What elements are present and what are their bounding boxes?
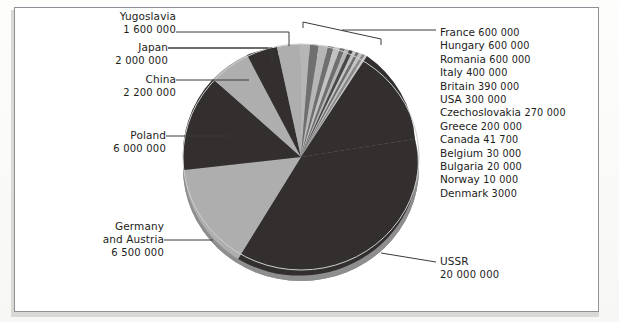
legend-item-norway: Norway 10 000 xyxy=(440,173,566,186)
callout-ussr: USSR 20 000 000 xyxy=(440,255,499,281)
callout-china-name: China xyxy=(20,73,176,86)
callout-japan-value: 2 000 000 xyxy=(20,54,168,67)
legend-item-bulgaria-value: 20 000 xyxy=(487,161,522,172)
legend-item-belgium: Belgium 30 000 xyxy=(440,147,566,160)
legend-item-greece-name: Greece xyxy=(440,120,477,132)
callout-poland: Poland 6 000 000 xyxy=(20,129,166,155)
legend-item-romania: Romania 600 000 xyxy=(440,53,566,66)
callout-germany-austria-line1: Germany xyxy=(20,220,164,233)
legend-item-france-value: 600 000 xyxy=(478,27,519,38)
legend-item-greece: Greece 200 000 xyxy=(440,120,566,133)
legend-item-norway-value: 10 000 xyxy=(483,174,518,185)
legend-item-denmark: Denmark 3000 xyxy=(440,187,566,200)
callout-yugoslavia-name: Yugoslavia xyxy=(20,10,176,23)
legend-item-france: France 600 000 xyxy=(440,26,566,39)
callout-yugoslavia-value: 1 600 000 xyxy=(20,23,176,36)
callout-germany-austria-line2: and Austria xyxy=(20,233,164,246)
legend-item-czechoslovakia-name: Czechoslovakia xyxy=(440,106,521,118)
legend-item-italy-name: Italy xyxy=(440,66,463,78)
legend-item-bulgaria: Bulgaria 20 000 xyxy=(440,160,566,173)
legend-item-hungary: Hungary 600 000 xyxy=(440,39,566,52)
legend-item-canada-value: 41 700 xyxy=(483,134,518,145)
legend-item-hungary-value: 600 000 xyxy=(488,40,529,51)
legend-item-belgium-value: 30 000 xyxy=(486,148,521,159)
legend-item-bulgaria-name: Bulgaria xyxy=(440,160,484,172)
callout-japan: Japan 2 000 000 xyxy=(20,41,168,67)
legend-item-britain: Britain 390 000 xyxy=(440,80,566,93)
legend-item-usa: USA 300 000 xyxy=(440,93,566,106)
legend-item-czechoslovakia-value: 270 000 xyxy=(524,107,565,118)
legend-item-hungary-name: Hungary xyxy=(440,39,485,51)
callout-germany-austria-value: 6 500 000 xyxy=(20,246,164,259)
callout-japan-name: Japan xyxy=(20,41,168,54)
legend-item-italy: Italy 400 000 xyxy=(440,66,566,79)
callout-poland-name: Poland xyxy=(20,129,166,142)
callout-poland-value: 6 000 000 xyxy=(20,142,166,155)
legend-item-usa-name: USA xyxy=(440,93,462,105)
legend-item-italy-value: 400 000 xyxy=(466,67,507,78)
callout-china: China 2 200 000 xyxy=(20,73,176,99)
legend-item-belgium-name: Belgium xyxy=(440,147,483,159)
callout-ussr-name: USSR xyxy=(440,255,499,268)
legend-item-denmark-name: Denmark xyxy=(440,187,488,199)
legend-item-canada: Canada 41 700 xyxy=(440,133,566,146)
callout-ussr-value: 20 000 000 xyxy=(440,268,499,281)
legend-item-greece-value: 200 000 xyxy=(481,121,522,132)
legend-item-denmark-value: 3000 xyxy=(492,188,517,199)
legend-list: France 600 000 Hungary 600 000 Romania 6… xyxy=(440,26,566,200)
figure-root: Yugoslavia 1 600 000 Japan 2 000 000 Chi… xyxy=(0,0,619,322)
legend-item-britain-value: 390 000 xyxy=(478,81,519,92)
callout-yugoslavia: Yugoslavia 1 600 000 xyxy=(20,10,176,36)
legend-item-norway-name: Norway xyxy=(440,173,480,185)
legend-item-romania-name: Romania xyxy=(440,53,486,65)
legend-item-canada-name: Canada xyxy=(440,133,480,145)
legend-item-romania-value: 600 000 xyxy=(489,54,530,65)
small-slices-bracket xyxy=(303,22,436,45)
legend-item-usa-value: 300 000 xyxy=(465,94,506,105)
callout-germany-austria: Germany and Austria 6 500 000 xyxy=(20,220,164,259)
leader-line-ussr xyxy=(381,253,436,262)
legend-item-france-name: France xyxy=(440,26,475,38)
pie-slices xyxy=(183,44,418,276)
callout-china-value: 2 200 000 xyxy=(20,86,176,99)
legend-item-czechoslovakia: Czechoslovakia 270 000 xyxy=(440,106,566,119)
legend-item-britain-name: Britain xyxy=(440,80,475,92)
